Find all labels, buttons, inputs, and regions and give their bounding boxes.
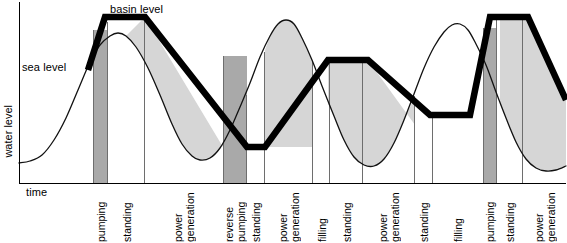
x-axis-label: time — [26, 186, 47, 198]
phase-label-standing: standing — [505, 188, 517, 242]
phase-label-power-generation: power generation — [534, 188, 557, 242]
phase-label-filling: filling — [453, 188, 465, 242]
phase-label-pumping: pumping — [96, 188, 108, 242]
tidal-cycle-figure: water level time sea level basin level p… — [0, 0, 567, 243]
energy-area-2 — [265, 20, 313, 147]
phase-label-filling: filling — [317, 188, 329, 242]
phase-label-pumping: pumping — [485, 188, 497, 242]
phase-label-power-generation: power generation — [173, 188, 196, 242]
phase-label-reverse-pumping: reverse pumping — [224, 188, 247, 242]
phase-label-standing: standing — [419, 188, 431, 242]
sea-level-label: sea level — [22, 61, 66, 73]
y-axis-label: water level — [2, 105, 14, 158]
energy-area-4 — [500, 17, 566, 171]
phase-label-power-generation: power generation — [278, 188, 301, 242]
phase-label-power-generation: power generation — [378, 188, 401, 242]
phase-label-standing: standing — [122, 188, 134, 242]
basin-level-label: basin level — [110, 3, 163, 15]
phase-label-standing: standing — [342, 188, 354, 242]
phase-label-standing: standing — [251, 188, 263, 242]
shaded-energy-areas — [126, 17, 566, 171]
energy-area-3 — [328, 60, 415, 166]
